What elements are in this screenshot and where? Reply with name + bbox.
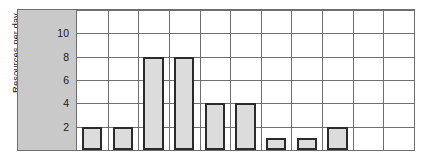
y-axis-tick-label: 4 xyxy=(39,98,69,108)
gridline-vertical xyxy=(108,10,109,150)
gridline-horizontal xyxy=(77,33,414,34)
gridline-vertical xyxy=(200,10,201,150)
gridline-horizontal xyxy=(77,10,414,11)
gridline-vertical xyxy=(322,10,323,150)
y-axis-scale-panel: 246810 xyxy=(18,10,77,150)
gridline-vertical xyxy=(138,10,139,150)
bar-chart: Resources per day 246810 xyxy=(0,0,422,156)
y-axis-tick-label: 2 xyxy=(39,122,69,132)
y-axis-tick-label: 6 xyxy=(39,75,69,85)
bar xyxy=(235,103,255,150)
bar xyxy=(205,103,225,150)
gridline-vertical xyxy=(169,10,170,150)
gridline-horizontal xyxy=(77,80,414,81)
gridline-vertical xyxy=(383,10,384,150)
bar xyxy=(327,127,347,150)
gridline-vertical xyxy=(230,10,231,150)
gridline-vertical xyxy=(261,10,262,150)
bar xyxy=(266,138,286,150)
gridline-vertical xyxy=(353,10,354,150)
y-axis-tick-label: 8 xyxy=(39,52,69,62)
gridline-vertical xyxy=(291,10,292,150)
bar xyxy=(297,138,317,150)
y-axis-tick-label: 10 xyxy=(39,28,69,38)
bar xyxy=(143,57,163,150)
bar xyxy=(82,127,102,150)
plot-area xyxy=(77,10,414,150)
bar xyxy=(113,127,133,150)
bar xyxy=(174,57,194,150)
chart-frame: 246810 xyxy=(17,9,415,151)
gridline-horizontal xyxy=(77,57,414,58)
